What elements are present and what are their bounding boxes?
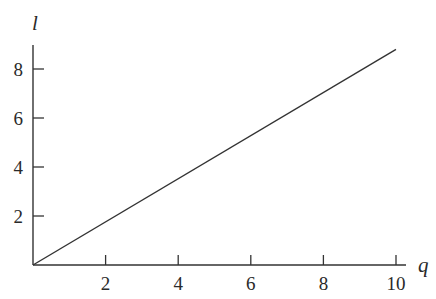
line-chart: l 2468 q 246810: [0, 0, 436, 299]
x-tick-label: 2: [101, 273, 111, 294]
x-tick-label: 4: [173, 273, 183, 294]
y-axis: l 2468: [14, 11, 45, 265]
series-line: [33, 49, 396, 265]
y-tick-label: 8: [14, 59, 24, 80]
y-tick-label: 4: [14, 157, 24, 178]
x-tick-label: 6: [246, 273, 256, 294]
y-axis-label: l: [32, 11, 38, 35]
plot-series: [33, 49, 396, 265]
y-tick-label: 2: [14, 206, 24, 227]
y-tick-label: 6: [14, 108, 24, 129]
x-axis-label: q: [418, 253, 429, 277]
x-tick-label: 8: [319, 273, 329, 294]
x-tick-label: 10: [387, 273, 406, 294]
x-axis: q 246810: [33, 253, 429, 294]
